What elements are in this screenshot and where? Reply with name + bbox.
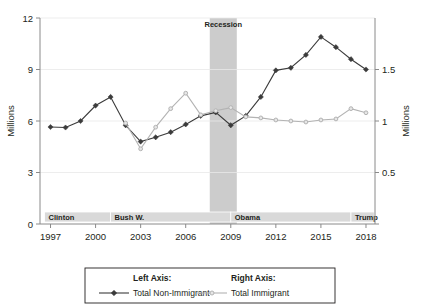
legend-right-header: Right Axis: [231, 273, 276, 283]
data-point [124, 121, 128, 125]
data-point [229, 106, 233, 110]
data-point [319, 118, 323, 122]
data-point [289, 119, 293, 123]
presidency-band-label: Bush W. [115, 213, 145, 222]
data-point [139, 147, 143, 151]
y-tick-label-left: 3 [28, 167, 33, 178]
data-point [153, 135, 158, 140]
y-tick-label-right: 0.5 [382, 167, 395, 178]
data-point [169, 107, 173, 111]
x-tick-label: 2012 [265, 231, 286, 242]
data-point [154, 125, 158, 129]
x-tick-label: 2009 [220, 231, 241, 242]
presidency-band-label: Obama [235, 213, 261, 222]
x-tick-label: 2003 [130, 231, 151, 242]
data-point [184, 91, 188, 95]
data-point [244, 115, 248, 119]
x-tick-label: 2015 [310, 231, 331, 242]
y-axis-title-right: Millions [400, 105, 411, 137]
x-tick-label: 1997 [40, 231, 61, 242]
data-point [259, 116, 263, 120]
y-tick-label-left: 12 [22, 13, 33, 24]
data-point [349, 107, 353, 111]
data-point [304, 120, 308, 124]
legend-box [85, 268, 335, 303]
y-tick-label-left: 6 [28, 116, 33, 127]
recession-label: Recession [205, 20, 243, 29]
y-tick-label-right: 1.5 [382, 64, 395, 75]
series-line [51, 37, 366, 142]
legend-left-header: Left Axis: [133, 273, 172, 283]
chart-container: RecessionClintonBush W.ObamaTrump0369120… [0, 0, 423, 307]
presidency-band-label: Clinton [49, 213, 75, 222]
y-tick-label-left: 9 [28, 64, 33, 75]
x-tick-label: 2000 [85, 231, 106, 242]
data-point [214, 109, 218, 113]
data-point [183, 122, 188, 127]
y-tick-label-left: 0 [28, 219, 33, 230]
y-tick-label-right: 1 [382, 116, 387, 127]
data-point [108, 94, 113, 99]
legend-right-label: Total Immigrant [231, 288, 290, 298]
data-point [364, 111, 368, 115]
data-point [63, 125, 68, 130]
line-chart: RecessionClintonBush W.ObamaTrump0369120… [0, 0, 423, 307]
x-tick-label: 2006 [175, 231, 196, 242]
data-point [48, 124, 53, 129]
y-axis-title-left: Millions [5, 105, 16, 137]
data-point [274, 118, 278, 122]
data-point [199, 113, 203, 117]
data-point [273, 68, 278, 73]
data-point [168, 130, 173, 135]
x-tick-label: 2018 [355, 231, 376, 242]
legend-marker-right [210, 291, 214, 295]
data-point [334, 117, 338, 121]
